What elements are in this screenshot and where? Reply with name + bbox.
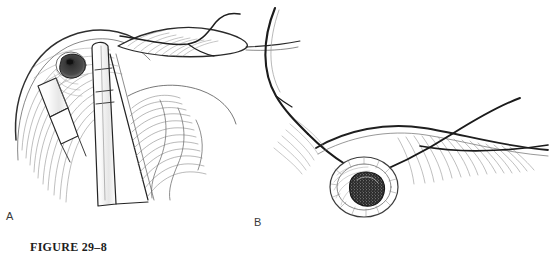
figure-page: A B FIGURE 29–8 bbox=[0, 0, 554, 263]
panel-label-a: A bbox=[6, 210, 14, 222]
figure-caption: FIGURE 29–8 bbox=[30, 240, 107, 255]
panel-b-stoma bbox=[330, 157, 398, 217]
figure-illustration bbox=[0, 0, 554, 263]
panel-label-b: B bbox=[254, 216, 262, 228]
figure-background bbox=[0, 0, 554, 263]
